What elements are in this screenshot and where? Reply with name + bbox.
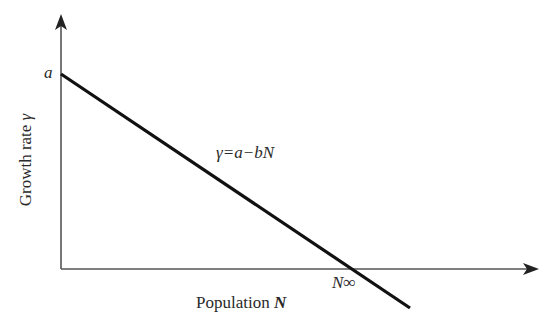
x-intercept-label: N∞ xyxy=(332,273,355,293)
y-intercept-label: a xyxy=(44,63,53,83)
y-axis-label-var: γ xyxy=(16,114,35,121)
x-axis-label-var: N xyxy=(274,293,286,312)
equation-label: γ=a−bN xyxy=(216,143,274,163)
y-axis-label-text: Growth rate xyxy=(16,120,35,206)
x-axis-label-text: Population xyxy=(196,293,274,312)
x-axis-label: Population N xyxy=(196,293,286,313)
growth-rate-chart: a γ=a−bN N∞ Population N Growth rate γ xyxy=(0,0,555,333)
growth-line xyxy=(61,74,410,308)
y-axis-label: Growth rate γ xyxy=(16,90,36,230)
chart-plot xyxy=(0,0,555,333)
